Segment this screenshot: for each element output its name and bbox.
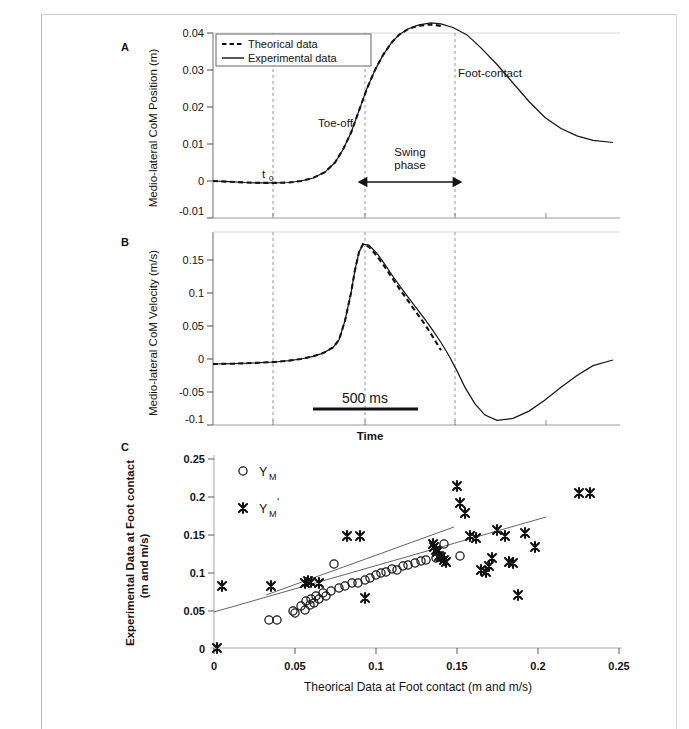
legend-label-experimental: Experimental data [248, 52, 338, 64]
panel-c-xtick-3: 0.15 [446, 660, 467, 672]
panel-a-ylabel: Medio-lateral CoM Position (m) [147, 49, 159, 208]
panel-a-annotation-toe-off: Toe-off [318, 117, 354, 129]
panel-c-xtick-0: 0 [211, 660, 217, 672]
panel-b-scalebar: 500 ms [313, 390, 418, 409]
panel-c-ytick-4: 0.05 [184, 605, 205, 617]
panel-a-label: A [121, 41, 129, 53]
panel-a-ytick-4: 0 [198, 175, 204, 187]
figure-root: A Medio-lateral CoM Position (m) 0.04 0.… [0, 0, 689, 729]
panel-a-xticks [273, 213, 546, 218]
panel-b-xticks [273, 420, 546, 425]
panel-c-yticks: 0.25 0.2 0.15 0.1 0.05 0 [184, 453, 214, 655]
panel-c-label: C [121, 441, 129, 453]
panel-a-ytick-3: 0.01 [183, 138, 204, 150]
panel-c-ytick-2: 0.15 [184, 529, 205, 541]
panel-b-ytick-1: 0.1 [189, 287, 204, 299]
panel-c-xlabel: Theorical Data at Foot contact (m and m/… [304, 680, 532, 694]
panel-b-ytick-3: 0 [198, 353, 204, 365]
legend-label-ym-sub: M [269, 472, 277, 482]
legend-label-ymprime: Y [259, 502, 268, 516]
panel-b-label: B [121, 236, 129, 248]
panel-c-ytick-3: 0.1 [190, 567, 205, 579]
panel-b-ytick-2: 0.05 [183, 320, 204, 332]
panel-b-ytick-5: -0.1 [185, 413, 204, 425]
panel-b-xlabel: Time [357, 430, 384, 442]
panel-c-ylabel-line2: (m and m/s) [138, 534, 150, 599]
panel-c: C Experimental Data at Foot contact (m a… [121, 441, 630, 694]
panel-a-ytick-5: -0.01 [179, 205, 204, 217]
panel-a-annotation-t0-sub: 0 [269, 174, 274, 183]
panel-a-annotations: t 0 Toe-off Foot-contact Swing phase [262, 67, 523, 183]
panel-a: A Medio-lateral CoM Position (m) 0.04 0.… [121, 23, 620, 218]
panel-a-ytick-2: 0.02 [183, 101, 204, 113]
panel-b-curve-theorical [213, 244, 441, 364]
panel-b: B Medio-lateral CoM Velocity (m/s) 0.15 … [121, 232, 620, 442]
panel-c-ytick-5: 0 [199, 643, 205, 655]
panel-a-ytick-0: 0.04 [183, 27, 204, 39]
panel-a-annotation-t0-text: t [262, 168, 266, 180]
panel-b-yticks: 0.15 0.1 0.05 0 -0.05 -0.1 [179, 254, 213, 425]
legend-marker-ymprime [239, 503, 247, 513]
panel-a-annotation-swing-phase-2: phase [394, 159, 425, 171]
panel-b-ylabel: Medio-lateral CoM Velocity (m/s) [147, 250, 159, 416]
panel-a-legend: Theorical data Experimental data [216, 34, 371, 66]
panel-a-ytick-1: 0.03 [183, 64, 204, 76]
panel-b-ytick-0: 0.15 [183, 254, 204, 266]
legend-label-ymprime-sub: M [269, 509, 277, 519]
panel-c-xtick-1: 0.05 [284, 660, 305, 672]
panel-c-ytick-1: 0.2 [190, 491, 205, 503]
panel-c-ylabel-line1: Experimental Data at Foot contact [124, 460, 136, 646]
legend-marker-ym [239, 467, 247, 475]
panel-a-annotation-swing-phase-1: Swing [394, 146, 425, 158]
panel-c-ytick-0: 0.25 [184, 453, 205, 465]
legend-label-theorical: Theorical data [248, 38, 319, 50]
panel-a-yticks: 0.04 0.03 0.02 0.01 0 -0.01 [179, 27, 213, 218]
panel-c-legend: Y M Y M ' [239, 465, 279, 519]
panel-b-ytick-4: -0.05 [179, 386, 204, 398]
panel-c-series-ymprime [213, 481, 594, 653]
legend-label-ym: Y [259, 465, 268, 479]
panel-c-xtick-5: 0.25 [608, 660, 629, 672]
legend-label-ymprime-prime: ' [277, 496, 279, 508]
panel-b-scalebar-label: 500 ms [342, 390, 388, 406]
scanned-page: A Medio-lateral CoM Position (m) 0.04 0.… [0, 0, 689, 729]
panel-a-annotation-foot-contact: Foot-contact [458, 67, 523, 79]
panel-c-xtick-2: 0.1 [368, 660, 383, 672]
panel-c-xtick-4: 0.2 [530, 660, 545, 672]
panel-c-xticks: 0 0.05 0.1 0.15 0.2 0.25 [211, 648, 630, 672]
